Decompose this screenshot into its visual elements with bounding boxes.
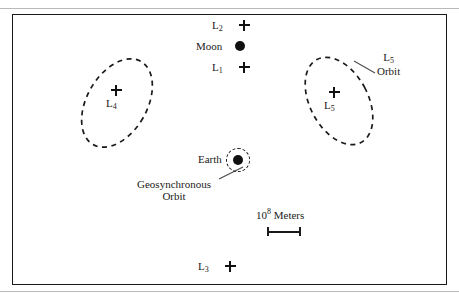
scale-bar-label: 108 Meters [256, 209, 304, 223]
l3-label-text: L [198, 260, 205, 272]
l5-orbit-ellipse [291, 46, 386, 156]
moon-body-dot [235, 41, 245, 51]
l4-label-text: L [106, 97, 113, 109]
l2-label-subscript: 2 [219, 24, 223, 33]
geo-orbit-label-line2: Orbit [162, 190, 185, 202]
figure-frame: L2 Moon L1 L5 Orbit L4 L5 Earth Geosynch… [12, 14, 447, 285]
l1-marker [239, 62, 250, 73]
scale-bar [267, 227, 301, 236]
earth-label: Earth [198, 153, 222, 165]
l5-label-text: L [324, 99, 331, 111]
scale-mantissa: 10 [256, 209, 267, 221]
l5-orbit-label: L5 Orbit [377, 51, 400, 77]
moon-label: Moon [196, 40, 222, 52]
l5-orbit-leader-line [354, 61, 375, 73]
l5-orbit-label-line2: Orbit [377, 65, 400, 77]
l2-marker [239, 20, 250, 31]
l5-orbit-label-line1-subscript: 5 [390, 56, 394, 65]
l3-label: L3 [198, 260, 209, 274]
scale-exponent: 8 [267, 207, 271, 216]
l4-orbit-ellipse [67, 46, 167, 159]
l3-label-subscript: 3 [205, 265, 209, 274]
geosynchronous-orbit-label: Geosynchronous Orbit [118, 178, 230, 202]
scale-bar-line [267, 231, 301, 233]
scale-unit: Meters [274, 209, 305, 221]
scale-bar-right-cap [299, 227, 301, 236]
l1-label-subscript: 1 [219, 66, 223, 75]
page-footer-rule [0, 291, 459, 292]
l2-label-text: L [212, 19, 219, 31]
l5-orbit-label-line1: L [383, 51, 390, 63]
l4-marker [111, 85, 122, 96]
l1-label-text: L [212, 61, 219, 73]
l5-marker [329, 87, 340, 98]
earth-body-dot [233, 155, 243, 165]
geo-orbit-label-line1: Geosynchronous [137, 178, 211, 190]
l4-label: L4 [106, 97, 117, 111]
page-header-rule [0, 8, 459, 9]
l1-label: L1 [212, 61, 223, 75]
l5-label: L5 [324, 99, 335, 113]
l4-label-subscript: 4 [113, 102, 117, 111]
l5-label-subscript: 5 [331, 104, 335, 113]
l3-marker [225, 261, 236, 272]
l2-label: L2 [212, 19, 223, 33]
